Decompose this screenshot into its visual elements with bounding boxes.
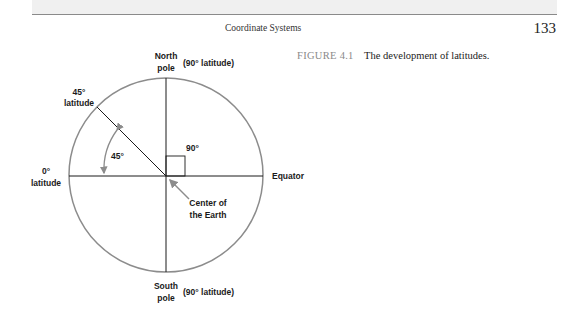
lat0-label: 0°: [42, 166, 51, 176]
latitude-45-line: [97, 107, 166, 176]
north-pole-label: North: [155, 51, 178, 61]
south-pole-note: (90° latitude): [183, 287, 234, 297]
north-pole-label-2: pole: [157, 63, 175, 73]
latitude-diagram: North pole (90° latitude) 45° latitude 4…: [0, 0, 576, 324]
equator-label: Equator: [272, 171, 305, 181]
center-pointer-arrow: [170, 180, 189, 199]
south-pole-label: South: [154, 281, 178, 291]
north-pole-note: (90° latitude): [183, 58, 234, 68]
right-angle-marker: [166, 156, 185, 176]
center-label: Center of: [189, 198, 226, 208]
angle-45-label: 45°: [111, 151, 124, 161]
lat45-label-2: latitude: [64, 98, 94, 108]
south-pole-label-2: pole: [157, 293, 175, 303]
lat45-label: 45°: [73, 87, 86, 97]
lat0-label-2: latitude: [31, 178, 61, 188]
angle-90-label: 90°: [186, 143, 199, 153]
center-label-2: the Earth: [190, 210, 227, 220]
